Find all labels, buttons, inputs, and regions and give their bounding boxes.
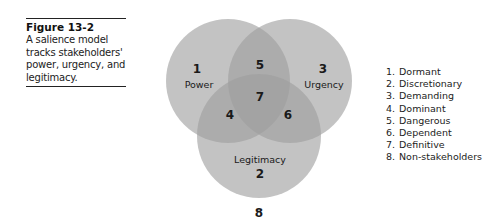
legend-item: 2.Discretionary [383,78,482,90]
region-4-number: 4 [226,108,234,122]
legend-list: 1.Dormant 2.Discretionary 3.Demanding 4.… [383,66,482,164]
legend-item: 5.Dangerous [383,115,482,127]
legend-item: 8.Non-stakeholders [383,151,482,163]
legend-item: 6.Dependent [383,127,482,139]
legend-item: 3.Demanding [383,90,482,102]
power-number: 1 [193,62,201,76]
power-label: Power [185,79,214,90]
urgency-number: 3 [319,62,327,76]
legend-item: 7.Definitive [383,139,482,151]
legend-item: 4.Dominant [383,103,482,115]
region-6-number: 6 [284,108,292,122]
legend-item: 1.Dormant [383,66,482,78]
legitimacy-label: Legitimacy [234,154,286,165]
legitimacy-number: 2 [256,167,264,181]
region-5-number: 5 [256,58,264,72]
region-8-number: 8 [255,206,263,220]
region-7-number: 7 [256,90,264,104]
urgency-label: Urgency [304,79,344,90]
